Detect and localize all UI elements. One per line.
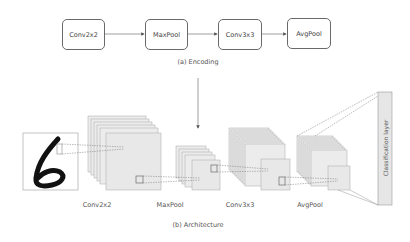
layer-label-avgpool: AvgPool	[297, 201, 323, 209]
classification-layer: Classification layer	[378, 92, 392, 205]
architecture-caption: (b) Architecture	[172, 221, 223, 229]
classification-layer-label: Classification layer	[382, 119, 390, 176]
layer-label-maxpool: MaxPool	[157, 201, 184, 209]
encoding-arrows	[105, 34, 286, 128]
layer-label-conv2x2: Conv2x2	[83, 201, 112, 209]
layer-stack-conv2x2	[88, 116, 161, 190]
layer-label-conv3x3: Conv3x3	[226, 201, 255, 209]
layer-stack-maxpool	[176, 146, 220, 190]
input-digit-image	[23, 133, 78, 190]
architecture-diagram: Classification layer	[0, 0, 410, 242]
layer-stack-conv3x3	[229, 128, 290, 190]
